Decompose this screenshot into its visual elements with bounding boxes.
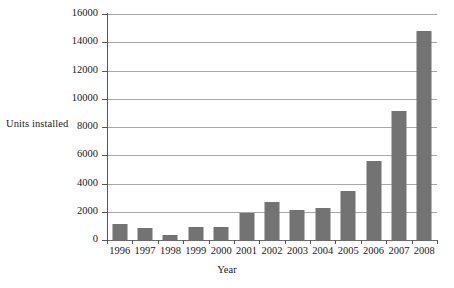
- x-axis-line: [107, 240, 438, 241]
- bar[interactable]: [290, 210, 305, 240]
- x-axis-tick-label: 2008: [407, 245, 441, 256]
- bar-slot: [132, 14, 157, 240]
- bar[interactable]: [341, 191, 356, 240]
- bar-slot: [310, 14, 335, 240]
- y-axis-tick-label: 16000: [38, 7, 98, 18]
- y-axis-tick-label: 4000: [38, 177, 98, 188]
- bar[interactable]: [417, 31, 432, 240]
- bar[interactable]: [112, 224, 127, 240]
- bar-chart: Units installed 020004000600080001000012…: [0, 0, 454, 288]
- x-axis-tick: [183, 240, 184, 244]
- x-axis-tick: [234, 240, 235, 244]
- bar-series: [107, 14, 437, 240]
- bar-slot: [259, 14, 284, 240]
- bar-slot: [386, 14, 411, 240]
- x-axis-tick: [132, 240, 133, 244]
- bar[interactable]: [138, 228, 153, 240]
- bar[interactable]: [315, 208, 330, 240]
- y-axis-tick-label: 12000: [38, 64, 98, 75]
- bar[interactable]: [366, 161, 381, 240]
- bar-slot: [412, 14, 437, 240]
- y-axis-tick-label: 6000: [38, 148, 98, 159]
- x-axis-tick: [259, 240, 260, 244]
- bar-slot: [107, 14, 132, 240]
- x-axis-tick: [335, 240, 336, 244]
- bar[interactable]: [239, 213, 254, 240]
- x-axis-title: Year: [0, 264, 454, 275]
- y-axis-tick-label: 8000: [38, 120, 98, 131]
- bar-slot: [234, 14, 259, 240]
- x-axis-tick: [386, 240, 387, 244]
- x-axis-tick: [209, 240, 210, 244]
- y-axis-tick-label: 10000: [38, 92, 98, 103]
- y-axis-tick-label: 14000: [38, 35, 98, 46]
- bar[interactable]: [214, 227, 229, 240]
- bar-slot: [158, 14, 183, 240]
- bar-slot: [361, 14, 386, 240]
- bar-slot: [209, 14, 234, 240]
- bar[interactable]: [188, 227, 203, 240]
- y-axis-tick-label: 0: [38, 233, 98, 244]
- x-axis-tick: [437, 240, 438, 244]
- x-axis-tick: [361, 240, 362, 244]
- x-axis-tick: [412, 240, 413, 244]
- bar-slot: [335, 14, 360, 240]
- x-axis-tick: [158, 240, 159, 244]
- bar[interactable]: [391, 111, 406, 240]
- x-axis-tick: [107, 240, 108, 244]
- x-axis-tick: [310, 240, 311, 244]
- y-axis-tick-label: 2000: [38, 205, 98, 216]
- bar-slot: [183, 14, 208, 240]
- bar-slot: [285, 14, 310, 240]
- x-axis-tick: [285, 240, 286, 244]
- bar[interactable]: [264, 202, 279, 240]
